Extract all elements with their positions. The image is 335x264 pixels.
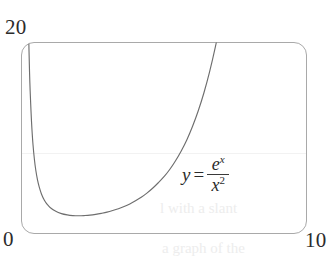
equation-equals-sign: = — [193, 164, 203, 186]
numerator-base: e — [212, 154, 220, 174]
y-axis-min-label: 0 — [3, 229, 14, 250]
equation-denominator: x2 — [208, 176, 228, 194]
numerator-exponent: x — [220, 153, 225, 165]
equation-numerator: ex — [209, 155, 228, 173]
y-axis-max-label: 20 — [5, 17, 26, 38]
equation-lhs: y — [182, 164, 190, 186]
equation-fraction: ex x2 — [207, 155, 229, 195]
x-axis-max-label: 10 — [305, 230, 326, 251]
figure-canvas: l with a slant a graph of the 20 0 10 y … — [0, 0, 335, 264]
denominator-exponent: 2 — [219, 174, 225, 186]
plot-frame — [21, 42, 307, 234]
equation-annotation: y = ex x2 — [182, 155, 229, 195]
scan-artifact-text-2: a graph of the — [162, 240, 245, 257]
